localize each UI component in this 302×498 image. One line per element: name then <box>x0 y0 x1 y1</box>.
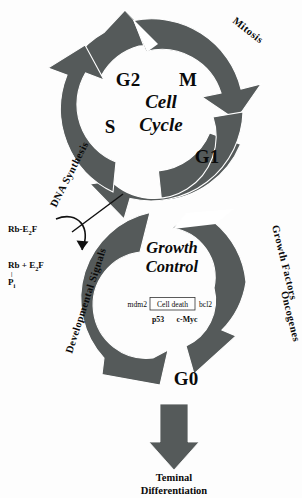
rb-free-main: Rb + E <box>8 260 35 270</box>
cell-cycle-figure: G2 M S G1 Cell Cycle Mitosis DNA Synthes… <box>0 0 302 498</box>
arc-label-growth-factors-group: Growth Factors <box>270 224 299 301</box>
phase-label-g0: G0 <box>174 368 198 389</box>
rb-e2f-tail: F <box>32 224 38 234</box>
phase-label-m: M <box>179 69 197 90</box>
rb-free-tail: F <box>38 260 44 270</box>
growth-control-title-line1: Growth <box>146 238 197 257</box>
phosphate-bond: | <box>11 270 12 277</box>
arc-arrow-growth-factors <box>172 210 246 374</box>
phase-label-g2: G2 <box>116 69 140 90</box>
cell-cycle-title-line1: Cell <box>145 91 177 112</box>
phase-label-s: S <box>105 116 116 137</box>
arc-label-mitosis-group: Mitosis <box>231 15 266 46</box>
growth-control-title-line2: Control <box>146 257 199 276</box>
arc-label-dna-synthesis: DNA Synthesis <box>48 140 90 209</box>
gene-label-cmyc: c-Myc <box>177 315 198 324</box>
gene-label-mdm2: mdm2 <box>128 300 148 309</box>
arc-label-dna-synthesis-group: DNA Synthesis <box>48 140 90 209</box>
rb-e2f-main: Rb-E <box>8 224 29 234</box>
phase-label-g1: G1 <box>195 146 219 167</box>
gene-label-bcl2: bcl2 <box>199 300 212 309</box>
outcome-label-line1: Teminal <box>156 472 192 483</box>
phosphorylation-arrowhead <box>77 241 89 251</box>
phosphate-group: Pi <box>8 277 16 289</box>
outcome-label-line2: Differentiation <box>141 485 207 496</box>
arc-label-growth-factors: Growth Factors <box>270 224 299 301</box>
terminal-differentiation-arrow <box>149 404 199 470</box>
arc-label-mitosis: Mitosis <box>231 15 266 46</box>
cell-death-label: Cell death <box>157 300 188 309</box>
phosphate-subscript: i <box>14 282 16 289</box>
rb-free-product: Rb + E2F <box>8 260 44 272</box>
gene-label-p53: p53 <box>152 315 164 324</box>
restriction-point-pointer <box>72 194 123 232</box>
cell-cycle-title-line2: Cycle <box>139 114 183 135</box>
rb-e2f-complex: Rb-E2F <box>8 224 38 236</box>
diagram-canvas: G2 M S G1 Cell Cycle Mitosis DNA Synthes… <box>0 0 302 498</box>
